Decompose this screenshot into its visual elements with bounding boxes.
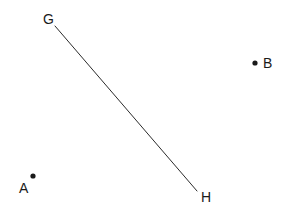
geometry-svg-layer	[0, 0, 285, 217]
line-segment-gh	[55, 26, 197, 191]
point-label-g: G	[43, 12, 54, 26]
geometry-figure-canvas: G H A B	[0, 0, 285, 217]
point-marker-a	[30, 173, 35, 178]
point-marker-b	[252, 60, 257, 65]
point-label-b: B	[263, 56, 272, 70]
point-label-a: A	[19, 181, 28, 195]
point-label-h: H	[201, 190, 211, 204]
